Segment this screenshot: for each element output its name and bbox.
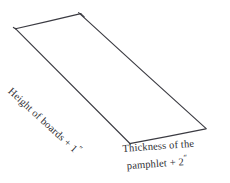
diagram-canvas: Height of boards + 1″ Thickness of thepa… <box>0 0 230 183</box>
inch-mark-icon: ″ <box>183 152 187 162</box>
corner-overshoot-top-left <box>13 27 15 28</box>
edge-top <box>16 14 81 29</box>
label-thickness-of-pamphlet: Thickness of thepamphlet + 2″ <box>122 137 196 173</box>
parallelogram-shape <box>0 0 230 183</box>
label-thickness-line-2-text: pamphlet + 2 <box>126 156 184 171</box>
edge-left-long <box>15 28 130 144</box>
